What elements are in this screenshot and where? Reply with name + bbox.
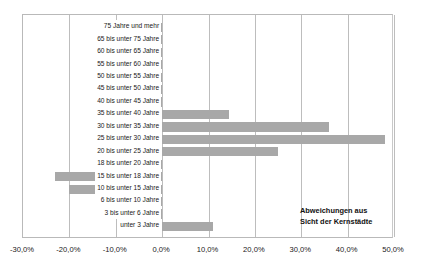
- chart-container: 75 Jahre und mehr65 bis unter 75 Jahre60…: [0, 0, 421, 276]
- category-label: 40 bis unter 45 Jahre: [95, 95, 161, 107]
- category-label: 3 bis unter 6 Jahre: [103, 207, 162, 219]
- category-label: 55 bis unter 60 Jahre: [95, 58, 161, 70]
- category-label: unter 3 Jahre: [118, 219, 161, 231]
- category-label: 30 bis unter 35 Jahre: [95, 120, 161, 132]
- top-caption: [6, 0, 166, 10]
- x-tick-label: -20,0%: [56, 242, 80, 258]
- x-tick-label: 50,0%: [382, 242, 404, 258]
- category-axis-labels: 75 Jahre und mehr65 bis unter 75 Jahre60…: [0, 14, 421, 238]
- category-label: 50 bis unter 55 Jahre: [95, 70, 161, 82]
- x-tick-label: 20,0%: [243, 242, 265, 258]
- category-label: 60 bis unter 65 Jahre: [95, 45, 161, 57]
- category-label: 15 bis unter 18 Jahre: [95, 170, 161, 182]
- category-label: 65 bis unter 75 Jahre: [95, 33, 161, 45]
- x-axis-tick-labels: -30,0%-20,0%-10,0%0,0%10,0%20,0%30,0%40,…: [0, 242, 421, 258]
- x-tick-label: -30,0%: [10, 242, 34, 258]
- category-label: 35 bis unter 40 Jahre: [95, 107, 161, 119]
- category-label: 75 Jahre und mehr: [102, 20, 161, 32]
- annotation-line-1: Abweichungen aus: [300, 206, 412, 217]
- x-tick-label: -10,0%: [103, 242, 127, 258]
- x-tick-label: 40,0%: [336, 242, 358, 258]
- category-label: 25 bis unter 30 Jahre: [95, 132, 161, 144]
- annotation-abweichungen: Abweichungen aus Sicht der Kernstädte: [300, 206, 412, 227]
- x-tick-label: 0,0%: [152, 242, 169, 258]
- category-label: 18 bis unter 20 Jahre: [95, 157, 161, 169]
- x-tick-label: 10,0%: [197, 242, 219, 258]
- category-label: 10 bis unter 15 Jahre: [95, 182, 161, 194]
- x-tick-label: 30,0%: [289, 242, 311, 258]
- category-label: 45 bis unter 50 Jahre: [95, 82, 161, 94]
- category-label: 20 bis unter 25 Jahre: [95, 145, 161, 157]
- category-label: 6 bis unter 10 Jahre: [99, 194, 161, 206]
- annotation-line-2: Sicht der Kernstädte: [300, 217, 412, 228]
